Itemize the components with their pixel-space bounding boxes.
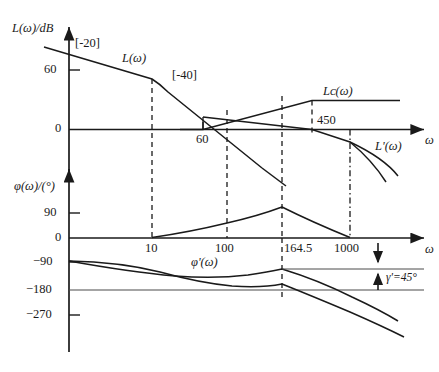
curve-phic-omega [152,207,350,238]
plot-canvas [0,0,439,372]
curve-Lc-omega [180,101,400,130]
curve-label-L: L(ω) [122,52,146,65]
curve-label-Lc: Lᴄ(ω) [323,85,353,98]
phase-ytick-label-minus270: −270 [26,308,52,321]
slope-label-minus20: [-20] [75,37,100,50]
curve-label-Lprime: L'(ω) [375,140,402,153]
slope-label-minus40: [-40] [172,69,197,82]
magnitude-ytick-label-60: 60 [44,63,57,76]
magnitude-xtick-label-60: 60 [196,133,209,146]
phase-axes [69,169,424,352]
phase-y-axis-label: φ(ω)/(°) [14,180,55,193]
phase-xtick-label-1000: 1000 [334,242,359,255]
magnitude-y-axis-label: L(ω)/dB [12,22,53,35]
bode-plot-figure: L(ω)/dB 60 0 [-20] [-40] L(ω) Lᴄ(ω) L'(ω… [0,0,439,372]
phase-xtick-label-164: 164.5 [284,242,312,255]
phase-ytick-label-minus90: −90 [33,255,53,268]
curve-label-phiprime: φ'(ω) [191,256,218,269]
phase-x-axis-label: ω [425,243,434,256]
magnitude-curves [44,47,400,186]
phase-margin-label: γ'=45° [386,272,417,284]
curve-phi-omega [69,261,404,337]
phase-xtick-label-10: 10 [145,242,158,255]
curve-Lprime-omega [203,117,398,176]
phase-ytick-label-90: 90 [44,206,57,219]
magnitude-ytick-label-0: 0 [55,122,61,135]
phase-curves [69,207,404,337]
phase-ytick-label-minus180: −180 [26,283,52,296]
curve-L-omega [44,47,262,168]
phase-xtick-label-100: 100 [215,242,234,255]
phase-ytick-label-0: 0 [55,231,61,244]
magnitude-x-axis-label: ω [425,134,434,147]
magnitude-xtick-label-450: 450 [317,114,336,127]
